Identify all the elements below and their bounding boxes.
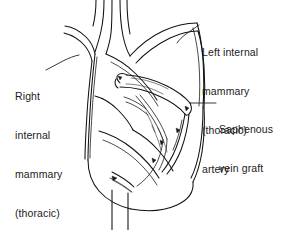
label-saphenous-vein-graft: Saphenous vein graft — [219, 97, 273, 201]
label-line: (thoracic) — [15, 207, 62, 220]
label-line: internal — [15, 129, 62, 142]
cabg-illustration-figure: Left internal mammary (thoracic) artery … — [0, 0, 294, 230]
label-line: vein graft — [219, 162, 273, 175]
great-vessels-group — [93, 0, 198, 63]
descending-aorta — [112, 190, 128, 230]
coronary-arteries — [124, 95, 167, 186]
label-line: Right — [15, 90, 62, 103]
graft-distal-limb — [162, 114, 189, 174]
label-line: Left internal — [202, 46, 258, 59]
label-right-internal-mammary-artery: Right internal mammary (thoracic) artery — [15, 64, 62, 230]
apical-detail — [110, 172, 134, 192]
right-internal-mammary-artery — [64, 26, 97, 160]
label-line: mammary — [15, 168, 62, 181]
label-line: Saphenous — [219, 123, 273, 136]
